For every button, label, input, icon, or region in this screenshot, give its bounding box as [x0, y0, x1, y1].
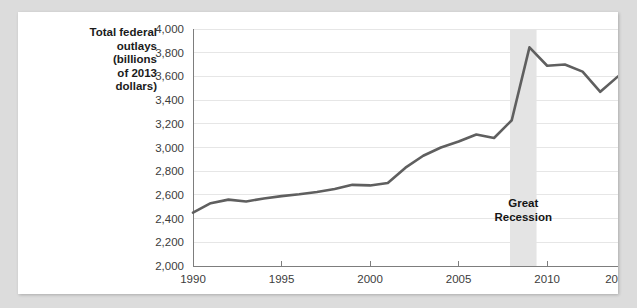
y-tick-label: 2,800 [155, 165, 184, 177]
annotation-label-line: Recession [494, 211, 552, 223]
x-axis-tick-marks [193, 261, 618, 266]
y-tick-label: 3,800 [155, 47, 184, 59]
y-tick-label: 3,400 [155, 94, 184, 106]
y-tick-label: 2,400 [155, 213, 184, 225]
line-chart: Total federal outlays (billions of 2013 … [18, 12, 618, 294]
figure-card: Total federal outlays (billions of 2013 … [18, 12, 618, 294]
plot-area: 2,0002,2002,4002,6002,8003,0003,2003,400… [18, 12, 618, 294]
y-axis-tick-labels: 2,0002,2002,4002,6002,8003,0003,2003,400… [155, 23, 184, 272]
y-tick-label: 2,000 [155, 260, 184, 272]
x-tick-label: 2000 [357, 273, 383, 285]
x-tick-label: 1990 [180, 273, 206, 285]
x-tick-label: 2005 [446, 273, 472, 285]
annotation-label-line: Great [508, 197, 538, 209]
y-tick-label: 2,200 [155, 236, 184, 248]
recession-shading [510, 29, 537, 266]
x-tick-label: 1995 [269, 273, 295, 285]
outlays-line [193, 47, 618, 212]
y-tick-label: 3,200 [155, 118, 184, 130]
x-tick-label: 2014 [605, 273, 618, 285]
x-axis-tick-labels: 199019952000200520102014 [180, 273, 618, 285]
y-tick-label: 4,000 [155, 23, 184, 35]
y-tick-label: 2,600 [155, 189, 184, 201]
y-tick-label: 3,600 [155, 70, 184, 82]
x-tick-label: 2010 [534, 273, 560, 285]
y-tick-label: 3,000 [155, 142, 184, 154]
